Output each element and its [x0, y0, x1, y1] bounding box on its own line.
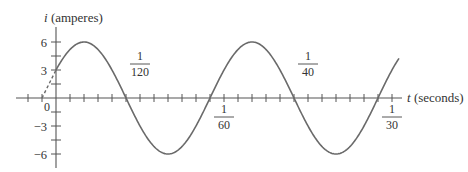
- svg-text:1: 1: [389, 102, 395, 116]
- x-fraction-label: 130: [382, 102, 402, 132]
- y-tick-label: 3: [41, 64, 47, 78]
- svg-text:60: 60: [218, 118, 230, 132]
- origin-label: 0: [44, 100, 50, 114]
- svg-text:1: 1: [305, 49, 311, 63]
- svg-text:1: 1: [221, 102, 227, 116]
- svg-text:40: 40: [302, 65, 314, 79]
- x-fraction-label: 160: [214, 102, 234, 132]
- sinusoid-current-chart: 63−3−61120160140130 i (amperes) t (secon…: [0, 0, 468, 172]
- svg-text:120: 120: [131, 65, 149, 79]
- x-fraction-label: 140: [298, 49, 318, 79]
- y-tick-label: −6: [34, 148, 47, 162]
- x-axis-label: t (seconds): [407, 90, 464, 105]
- y-tick-label: 6: [41, 36, 47, 50]
- y-tick-label: −3: [34, 120, 47, 134]
- axes: [16, 27, 402, 168]
- svg-text:1: 1: [137, 49, 143, 63]
- y-axis-label: i (amperes): [44, 10, 103, 25]
- x-fraction-label: 1120: [130, 49, 150, 79]
- svg-text:30: 30: [386, 118, 398, 132]
